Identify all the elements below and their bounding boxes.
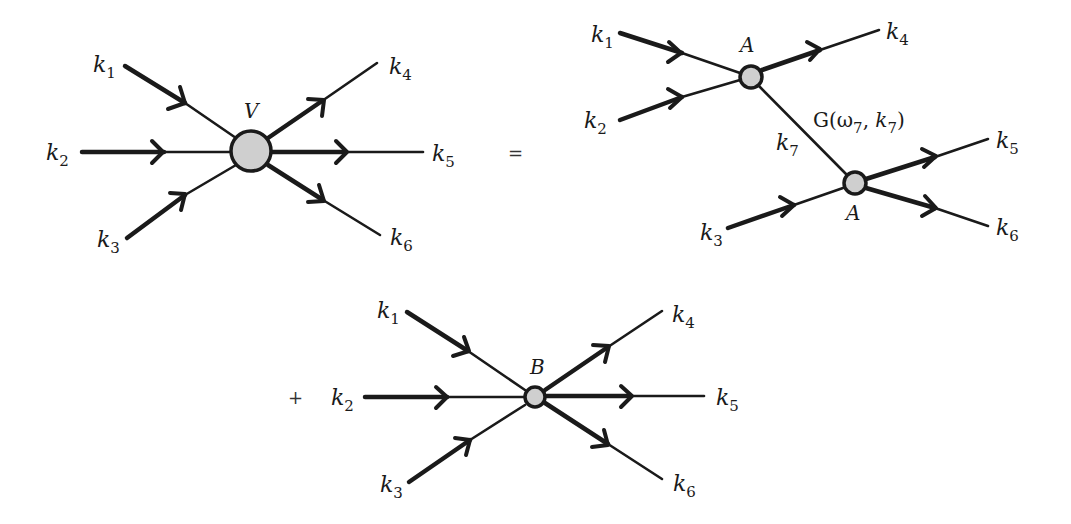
label-k1: k1 — [93, 52, 116, 82]
bottom-diagram: B k1 k2 k3 k4 k5 k6 — [331, 298, 739, 502]
label-k6: k6 — [390, 225, 413, 255]
label-k3: k3 — [97, 227, 120, 257]
equals-sign: = — [508, 143, 523, 164]
leg-k3-thick — [127, 195, 185, 238]
leg-k6-thick — [545, 403, 608, 444]
leg-k1-thin — [468, 351, 525, 390]
vertex-a-bottom-label: A — [844, 201, 860, 225]
vertex-a-bottom — [844, 172, 866, 194]
leg-k6-thick — [268, 165, 323, 200]
label-k2: k2 — [331, 385, 354, 415]
vertex-a-top — [740, 66, 762, 88]
leg-k1-thin — [185, 103, 236, 138]
leg-k6-thin — [935, 208, 988, 226]
leg-k4-thin — [608, 311, 662, 347]
leg-k3-thin — [794, 188, 843, 205]
leg-k4-thin — [322, 63, 377, 101]
leg-k4-thick — [268, 101, 322, 138]
diagram-canvas: V k1 k2 k3 k4 k5 k6 = — [0, 0, 1071, 524]
label-k3: k3 — [380, 472, 403, 502]
label-k6: k6 — [673, 471, 696, 501]
label-k2: k2 — [46, 140, 69, 170]
label-k4: k4 — [389, 54, 412, 84]
label-k1: k1 — [591, 22, 614, 52]
right-diagram: A A G(ω7, k7) k7 k1 k2 k3 k4 k5 k6 — [584, 19, 1019, 250]
vertex-v-label: V — [244, 99, 261, 123]
leg-k2-thick — [620, 97, 682, 120]
label-k4: k4 — [672, 302, 695, 332]
label-k7: k7 — [776, 130, 799, 160]
leg-k6-thin — [608, 444, 662, 479]
label-k5: k5 — [432, 141, 455, 171]
vertex-b-label: B — [529, 355, 545, 379]
leg-k3-thin — [470, 405, 525, 440]
leg-k1-thin — [682, 53, 740, 73]
label-k6: k6 — [996, 215, 1019, 245]
label-k3: k3 — [700, 220, 723, 250]
leg-k1-thick — [407, 312, 468, 351]
leg-k5-thin — [935, 139, 988, 157]
leg-k4-thin — [820, 30, 879, 50]
label-k5: k5 — [996, 128, 1019, 158]
label-k2: k2 — [584, 108, 607, 138]
label-k5: k5 — [716, 385, 739, 415]
leg-k3-thin — [185, 165, 236, 195]
leg-k1-thick — [125, 66, 185, 103]
propagator-label: G(ω7, k7) — [813, 108, 905, 137]
leg-k6-thin — [323, 200, 380, 235]
vertex-a-top-label: A — [738, 33, 754, 57]
vertex-v — [231, 131, 271, 171]
leg-k3-thick — [409, 440, 470, 482]
leg-k4-thick — [545, 347, 608, 390]
plus-sign: + — [288, 387, 303, 408]
vertex-b — [525, 387, 545, 407]
label-k1: k1 — [377, 298, 400, 328]
left-diagram: V k1 k2 k3 k4 k5 k6 — [46, 52, 455, 257]
label-k4: k4 — [886, 19, 909, 49]
leg-k2-thin — [682, 80, 740, 97]
